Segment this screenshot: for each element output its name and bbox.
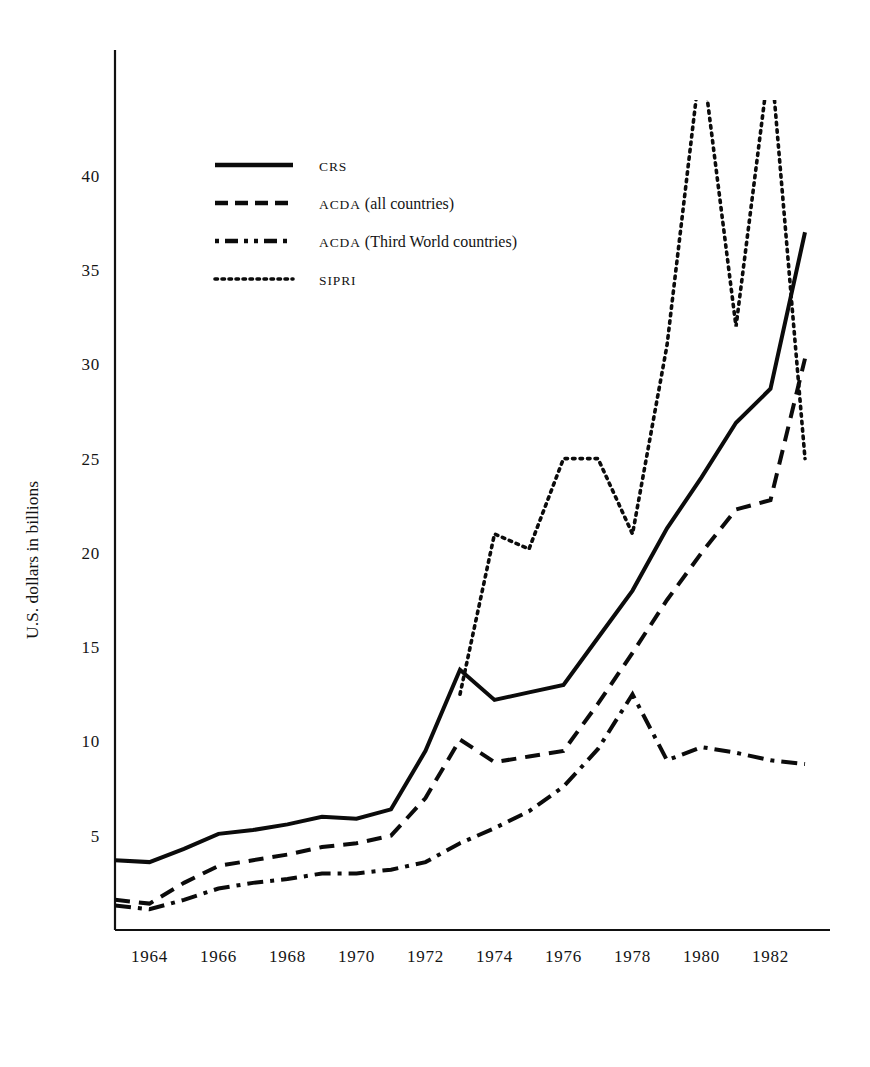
y-tick-label: 35 [82, 261, 100, 280]
x-tick-label: 1968 [269, 947, 306, 966]
legend-label: ACDA (all countries) [319, 195, 454, 213]
y-tick-label: 10 [82, 732, 100, 751]
legend-label: ACDA (Third World countries) [319, 233, 517, 251]
data-series-group [115, 53, 805, 909]
x-tick-label: 1970 [338, 947, 375, 966]
legend-label-rest: (Third World countries) [361, 233, 517, 251]
legend-label-acronym: ACDA [319, 235, 361, 250]
series-line-dash-dot [115, 694, 805, 909]
x-tick-label: 1964 [131, 947, 168, 966]
legend-label: SIPRI [319, 273, 357, 288]
y-tick-label: 20 [82, 544, 100, 563]
legend-label-rest: (all countries) [361, 195, 454, 213]
legend-label-acronym: SIPRI [319, 273, 357, 288]
x-tick-labels: 1964196619681970197219741976197819801982 [131, 947, 789, 966]
series-line-dotted [460, 53, 805, 694]
line-chart: U.S. dollars in billions 510152025303540… [0, 0, 870, 1067]
legend-label-acronym: ACDA [319, 197, 361, 212]
chart-figure: U.S. dollars in billions 510152025303540… [0, 0, 870, 1067]
x-tick-label: 1972 [407, 947, 444, 966]
legend-label: CRS [319, 159, 347, 174]
chart-legend: CRSACDA (all countries)ACDA (Third World… [215, 159, 517, 288]
y-tick-labels: 510152025303540 [82, 167, 100, 846]
x-tick-label: 1976 [545, 947, 582, 966]
legend-label-acronym: CRS [319, 159, 347, 174]
y-tick-label: 30 [82, 355, 100, 374]
y-tick-label: 15 [82, 638, 100, 657]
x-tick-label: 1978 [614, 947, 651, 966]
x-tick-label: 1982 [752, 947, 789, 966]
y-tick-label: 25 [82, 450, 100, 469]
y-tick-label: 40 [82, 167, 100, 186]
y-tick-label: 5 [91, 827, 100, 846]
series-line-dashed [115, 359, 805, 904]
x-tick-label: 1980 [683, 947, 720, 966]
y-axis-title: U.S. dollars in billions [22, 481, 42, 639]
series-line-solid [115, 232, 805, 862]
x-tick-label: 1966 [200, 947, 237, 966]
x-tick-label: 1974 [476, 947, 513, 966]
